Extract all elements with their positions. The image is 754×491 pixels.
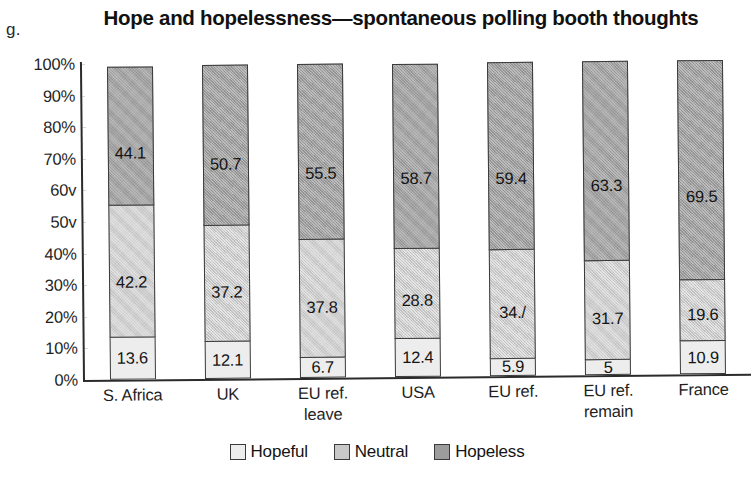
x-axis-label-line: EU ref. [275,382,370,404]
x-axis-label-0: S. Africa [85,384,180,406]
bar-segment-value: 12.4 [402,349,433,366]
legend-label: Hopeless [455,442,524,462]
bar-stack: 13.642.244.1 [107,67,156,380]
bar-segment-value: 37.2 [211,284,242,301]
bar-segment-neutral[interactable]: 31.7 [584,260,631,361]
bar-stack: 5.934./59.4 [487,63,536,376]
bar-segment-value: 59.4 [495,170,526,187]
legend-item-neutral[interactable]: Neutral [334,442,408,462]
x-axis-label-line: USA [370,381,465,403]
x-axis-label-line: S. Africa [85,384,180,406]
bar-segment-value: 6.7 [311,359,334,376]
x-axis-label-line: EU ref. [466,380,561,402]
y-axis-tick-100: 100% [7,55,75,75]
x-axis-label-5: EU ref.remain [561,380,657,422]
bar-segment-value: 58.7 [400,170,431,187]
bar-stack: 12.428.858.7 [392,65,441,378]
bar-segment-value: 5 [604,359,613,375]
bar-segment-hopeful[interactable]: 12.1 [204,340,250,379]
x-axis-label-line: leave [276,403,371,425]
bar-segment-value: 44.1 [115,144,146,161]
bar-segment-hopeless[interactable]: 69.5 [677,60,725,280]
bar-column[interactable]: 5.934./59.4 [487,60,536,376]
bar-segment-value: 69.5 [686,188,717,205]
bar-column[interactable]: 6.737.855.5 [297,62,346,378]
bar-column[interactable]: 12.428.858.7 [392,61,441,377]
bar-segment-value: 63.3 [591,177,622,194]
y-axis-tick-40: 40% [9,244,77,264]
bar-column[interactable]: 531.763.3 [582,59,631,375]
bar-segment-value: 37.8 [306,299,337,316]
legend-label: Neutral [355,442,408,462]
legend-item-hopeful[interactable]: Hopeful [230,442,308,462]
legend-swatch-hopeless [434,444,450,460]
x-axis-label-line: UK [180,383,275,405]
y-axis-tick-90: 90% [7,86,75,106]
bar-segment-hopeful[interactable]: 13.6 [109,336,155,379]
bar-stack: 12.137.250.7 [202,66,251,379]
bar-segment-value: 31.7 [592,310,623,327]
x-axis-label-2: EU ref.leave [275,382,371,424]
gridlines [0,0,750,1]
chart-legend: HopefulNeutralHopeless [0,442,754,462]
x-axis-label-line: EU ref. [561,380,656,402]
bar-segment-value: 13.6 [117,350,148,367]
bar-segment-hopeful[interactable]: 12.4 [395,337,441,377]
bar-segment-neutral[interactable]: 19.6 [679,279,726,341]
bar-stack: 10.919.669.5 [677,61,726,374]
bar-segment-value: 42.2 [116,273,147,290]
legend-item-hopeless[interactable]: Hopeless [434,442,524,462]
bar-segment-hopeless[interactable]: 50.7 [202,65,250,226]
y-axis-tick-50: 50v [8,213,76,233]
bar-stack: 531.763.3 [582,62,631,375]
bar-segment-hopeful[interactable]: 5 [585,359,631,375]
bar-segment-hopeful[interactable]: 5.9 [490,357,536,376]
bar-segment-hopeful[interactable]: 6.7 [300,356,346,378]
bar-segment-value: 50.7 [210,156,241,173]
bar-segment-hopeless[interactable]: 63.3 [582,61,630,261]
x-axis-label-4: EU ref. [466,380,561,402]
x-axis-label-line: remain [561,400,656,422]
x-axis-label-line: France [656,379,751,401]
bar-segment-neutral[interactable]: 28.8 [394,248,441,339]
bar-segment-hopeless[interactable]: 55.5 [297,64,345,240]
chart-plot-skew-wrapper: 100%90%80%70%60v50v40%30%20%10%0% 13.642… [0,0,754,491]
bar-column[interactable]: 12.137.250.7 [202,62,251,378]
bar-segment-hopeful[interactable]: 10.9 [680,339,726,374]
y-axis-tick-30: 30% [9,276,77,296]
legend-swatch-hopeful [230,444,246,460]
y-axis-tick-80: 80% [7,118,75,138]
x-axis-label-6: France [656,379,751,401]
bar-segment-value: 28.8 [402,292,433,309]
bar-column[interactable]: 13.642.244.1 [107,63,156,379]
y-axis-tick-60: 60v [8,181,76,201]
bar-segment-value: 34./ [499,304,526,321]
bar-segment-value: 5.9 [502,358,525,375]
y-axis-tick-70: 70% [8,149,76,169]
y-axis-tick-10: 10% [10,339,78,359]
y-axis-tick-labels: 100%90%80%70%60v50v40%30%20%10%0% [7,52,78,387]
legend-swatch-neutral [334,444,350,460]
bar-segment-hopeless[interactable]: 44.1 [107,66,154,206]
bar-stack: 6.737.855.5 [297,65,346,378]
plot-area: 13.642.244.112.137.250.76.737.855.512.42… [82,58,751,380]
x-axis-label-1: UK [180,383,275,405]
bar-segment-neutral[interactable]: 37.8 [298,238,345,358]
bar-column[interactable]: 10.919.669.5 [677,58,726,374]
y-axis-tick-20: 20% [9,307,77,327]
legend-label: Hopeful [251,442,308,462]
bar-segment-neutral[interactable]: 34./ [489,249,536,359]
x-axis-category-labels: S. AfricaUKEU ref.leaveUSAEU ref.EU ref.… [85,379,752,445]
bar-segment-value: 19.6 [687,306,718,323]
x-axis-label-3: USA [370,381,465,403]
bar-segment-neutral[interactable]: 42.2 [108,204,155,338]
bar-segment-hopeless[interactable]: 59.4 [487,62,535,250]
bar-segment-neutral[interactable]: 37.2 [203,224,250,342]
bar-segment-value: 55.5 [305,164,336,181]
bar-segment-value: 10.9 [687,348,718,365]
bar-segment-hopeless[interactable]: 58.7 [392,63,440,249]
y-axis-tick-0: 0% [10,371,78,391]
bar-segment-value: 12.1 [212,351,243,368]
